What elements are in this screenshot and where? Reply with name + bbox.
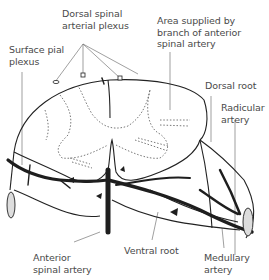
label-surface-pial-plexus: Surface pial plexus <box>9 44 64 67</box>
label-area-supplied: Area supplied by branch of anterior spin… <box>157 15 241 50</box>
root-stumps <box>7 192 253 236</box>
label-dorsal-spinal-arterial-plexus: Dorsal spinal arterial plexus <box>62 8 129 31</box>
label-ventral-root: Ventral root <box>124 245 179 257</box>
label-anterior-spinal-artery: Anterior spinal artery <box>33 252 92 275</box>
dorsal-plexus-vessels <box>53 73 122 84</box>
flow-arrows <box>68 166 178 216</box>
spinal-cord-outline <box>10 80 254 238</box>
label-dorsal-root: Dorsal root <box>205 80 256 92</box>
vessels <box>8 78 252 232</box>
label-radicular-artery: Radicular artery <box>221 102 265 125</box>
leader-lines <box>22 44 235 255</box>
grey-matter-outline <box>45 86 190 168</box>
label-medullary-artery: Medullary artery <box>204 252 250 275</box>
